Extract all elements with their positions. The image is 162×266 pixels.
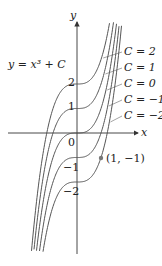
tick-label-neg1: −1	[63, 162, 79, 173]
curve-label-cneg1: C = −1	[124, 94, 162, 105]
y-axis-label: y	[70, 10, 76, 21]
curve-label-c1: C = 1	[124, 62, 156, 73]
curve-label-c2: C = 2	[124, 46, 156, 57]
curve-label-cneg2: C = −2	[124, 110, 162, 121]
point-1-neg1	[99, 156, 103, 160]
equation-label: y = x³ + C	[8, 59, 66, 70]
point-label: (1, −1)	[106, 153, 145, 164]
leader-line	[109, 100, 122, 106]
tick-label-0: 0	[68, 137, 75, 148]
curve-label-c0: C = 0	[124, 78, 156, 89]
leader-line	[110, 116, 122, 122]
tick-label-2: 2	[68, 77, 75, 88]
tick-label-neg2: −2	[63, 186, 79, 197]
x-axis-label: x	[141, 127, 147, 138]
tick-label-1: 1	[68, 101, 75, 112]
cubic-family-figure: y x y = x³ + C 2 1 0 −1 −2 C = 2 C = 1 C…	[0, 0, 162, 266]
plot-svg	[0, 0, 162, 266]
